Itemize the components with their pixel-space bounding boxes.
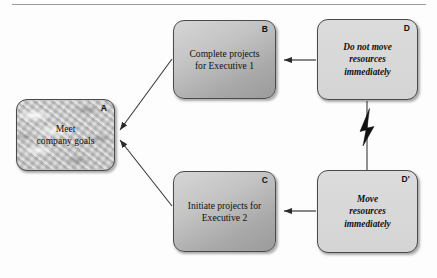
node-c-text-line1: Initiate projects for: [178, 199, 271, 211]
node-b-complete-projects[interactable]: B Complete projects for Executive 1: [173, 20, 276, 99]
node-a-text-line2: company goals: [21, 135, 110, 147]
node-c-label: C: [262, 175, 268, 185]
node-b-text-line2: for Executive 1: [178, 60, 271, 72]
node-dprime-text: Move resources immediately: [318, 193, 417, 231]
node-c-text: Initiate projects for Executive 2: [174, 199, 275, 223]
connector-d-to-dprime: [360, 101, 374, 170]
node-d-do-not-move-resources[interactable]: D Do not move resources immediately: [317, 19, 418, 100]
node-a-meet-company-goals[interactable]: A Meet company goals: [16, 99, 115, 171]
node-b-text-line1: Complete projects: [178, 47, 271, 59]
node-a-label: A: [101, 103, 107, 113]
top-divider-rule: [12, 4, 426, 5]
node-dprime-text-line3: immediately: [322, 218, 413, 231]
node-d-text-line3: immediately: [322, 66, 413, 79]
diagram-canvas: A Meet company goals B Complete projects…: [0, 0, 437, 278]
node-dprime-label: D': [401, 174, 410, 184]
node-d-label: D: [404, 23, 410, 33]
node-a-text-line1: Meet: [21, 123, 110, 135]
connector-c-to-a: [120, 140, 172, 206]
node-c-text-line2: Executive 2: [178, 212, 271, 224]
node-d-text: Do not move resources immediately: [318, 41, 417, 79]
node-d-text-line1: Do not move: [322, 41, 413, 54]
node-b-text: Complete projects for Executive 1: [174, 47, 275, 71]
node-dprime-text-line2: resources: [322, 205, 413, 218]
node-d-text-line2: resources: [322, 53, 413, 66]
node-dprime-move-resources[interactable]: D' Move resources immediately: [317, 170, 418, 253]
connector-b-to-a: [120, 59, 172, 130]
lightning-bolt-icon: [360, 109, 374, 147]
node-c-initiate-projects[interactable]: C Initiate projects for Executive 2: [173, 171, 276, 252]
node-b-label: B: [262, 24, 268, 34]
node-dprime-text-line1: Move: [322, 193, 413, 206]
node-a-text: Meet company goals: [17, 123, 114, 147]
